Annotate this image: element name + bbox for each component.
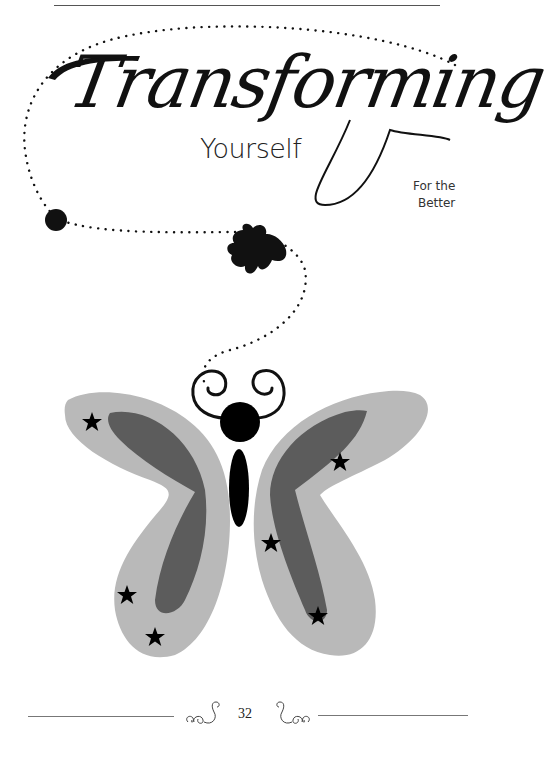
flourish-left-icon xyxy=(184,700,224,730)
page-footer: 32 xyxy=(0,700,484,730)
right-antenna xyxy=(253,371,284,418)
subtitle: For the Better xyxy=(413,178,455,212)
page-number: 32 xyxy=(238,706,252,722)
left-antenna xyxy=(193,371,226,418)
butterfly-body xyxy=(229,449,249,527)
flourish-right-icon xyxy=(272,700,312,730)
subtitle-line-2: Better xyxy=(413,195,455,212)
butterfly-head xyxy=(220,402,260,442)
footer-rule-left xyxy=(28,716,174,717)
title-yourself: Yourself xyxy=(200,133,301,164)
title-script: Transforming xyxy=(63,40,548,124)
footer-rule-right xyxy=(318,715,468,716)
dot-icon xyxy=(45,209,67,231)
splat-icon xyxy=(227,224,286,274)
subtitle-line-1: For the xyxy=(413,178,455,195)
